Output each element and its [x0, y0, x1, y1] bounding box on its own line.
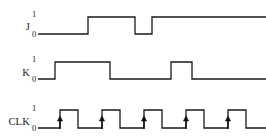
level-label-j-low: 0: [32, 29, 36, 39]
signal-label-j: J: [26, 21, 30, 32]
signal-row-clk: CLK 1 0: [8, 103, 266, 133]
waveform-path-k: [38, 62, 266, 79]
signal-label-k: K: [22, 67, 30, 78]
signal-row-k: K 1 0: [22, 54, 266, 84]
signal-row-j: J 1 0: [26, 9, 266, 39]
level-label-clk-low: 0: [32, 123, 36, 133]
level-label-k-low: 0: [32, 74, 36, 84]
level-label-clk-high: 1: [32, 103, 36, 113]
waveform-canvas: J 1 0 K 1 0 CLK 1 0: [0, 0, 266, 137]
waveform-path-j: [38, 17, 266, 34]
signal-label-clk: CLK: [8, 116, 30, 127]
level-label-j-high: 1: [32, 9, 36, 19]
level-label-k-high: 1: [32, 54, 36, 64]
waveform-path-clk: [38, 110, 266, 128]
timing-diagram: J 1 0 K 1 0 CLK 1 0: [0, 0, 266, 137]
